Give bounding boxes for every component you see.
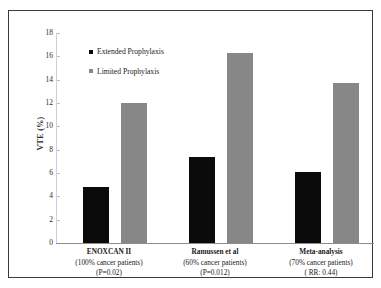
legend-label-extended: Extended Prophylaxis	[97, 48, 164, 56]
y-axis-tick-label: 8	[9, 146, 53, 154]
category-name: ENOXCAN II	[48, 247, 170, 258]
category-label-1: ENOXCAN II(100% cancer patients)(P=0.02)	[48, 247, 170, 279]
y-axis-tick-label: 0	[9, 239, 53, 247]
legend-swatch-icon-extended	[89, 50, 93, 54]
y-axis-tick-label: 18	[9, 29, 53, 37]
figure-canvas: VTE (%) 181614121086420 Extended Prophyl…	[0, 0, 381, 288]
y-axis-tick-label: 4	[9, 193, 53, 201]
y-axis-tick-label: 16	[9, 53, 53, 61]
category-name: Ramussen et al	[154, 247, 276, 258]
chart-frame: VTE (%) 181614121086420 Extended Prophyl…	[8, 10, 373, 278]
category-note-statistic: (P=0.02)	[48, 268, 170, 279]
legend-swatch-icon-limited	[89, 69, 93, 73]
y-axis-tick-label: 14	[9, 76, 53, 84]
bar-extended-3	[295, 172, 321, 243]
x-axis-line	[56, 243, 374, 244]
y-axis-tick-label: 10	[9, 123, 53, 131]
y-axis-tick-label: 12	[9, 99, 53, 107]
y-axis-tick-label: 2	[9, 216, 53, 224]
y-axis-tick-label: 6	[9, 169, 53, 177]
category-label-3: Meta-analysis(70% cancer patients)( RR: …	[260, 247, 381, 279]
category-label-2: Ramussen et al(60% cancer patients)(P=0.…	[154, 247, 276, 279]
bar-extended-1	[83, 187, 109, 243]
category-name: Meta-analysis	[260, 247, 381, 258]
bar-extended-2	[189, 157, 215, 243]
bar-limited-3	[333, 83, 359, 243]
category-note-population: (70% cancer patients)	[260, 258, 381, 269]
legend-item-extended: Extended Prophylaxis	[89, 48, 164, 56]
bar-limited-1	[121, 103, 147, 243]
category-note-statistic: ( RR: 0.44)	[260, 268, 381, 279]
legend-item-limited: Limited Prophylaxis	[89, 68, 164, 76]
category-note-population: (100% cancer patients)	[48, 258, 170, 269]
category-note-statistic: (P=0.012)	[154, 268, 276, 279]
legend-label-limited: Limited Prophylaxis	[97, 68, 159, 76]
category-note-population: (60% cancer patients)	[154, 258, 276, 269]
chart-legend: Extended Prophylaxis Limited Prophylaxis	[89, 48, 164, 87]
bar-limited-2	[227, 53, 253, 243]
